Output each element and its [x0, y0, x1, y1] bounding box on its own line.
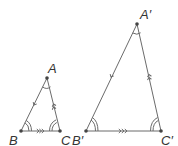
angle-b-prime-arc: [91, 120, 96, 131]
similar-triangles-figure: [0, 0, 178, 146]
label-c: C: [61, 134, 70, 146]
points-abc: [19, 76, 62, 133]
point-b-prime: [84, 129, 88, 133]
label-b-prime: B′: [72, 134, 83, 146]
points-a-prime-b-prime-c-prime: [84, 22, 163, 133]
label-c-prime: C′: [161, 134, 173, 146]
angle-c-arc: [50, 120, 57, 131]
tick-marks-a-prime-b-prime-c-prime: [109, 74, 151, 133]
angle-b-arc: [25, 123, 29, 131]
point-a-prime: [135, 22, 139, 26]
label-a: A: [48, 62, 57, 75]
point-a: [45, 76, 49, 80]
label-b: B: [9, 134, 18, 146]
angle-a-prime-arc: [133, 33, 141, 34]
point-b: [19, 129, 23, 133]
label-a-prime: A′: [140, 8, 151, 21]
